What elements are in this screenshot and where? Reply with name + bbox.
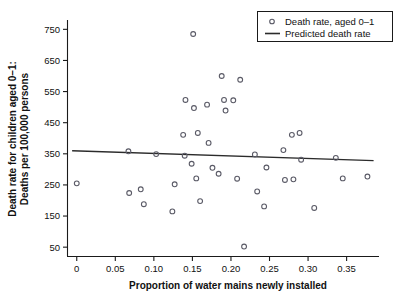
y-axis-title-line1: Death rate for children aged 0–1: <box>7 61 18 217</box>
y-tick-label: 50 <box>49 242 60 253</box>
data-point <box>183 98 188 103</box>
fit-line-segment <box>72 151 373 161</box>
legend-label-scatter: Death rate, aged 0–1 <box>285 16 374 27</box>
data-point <box>255 189 260 194</box>
data-point <box>283 178 288 183</box>
x-tick-label: 0.15 <box>183 263 202 274</box>
data-point <box>262 204 267 209</box>
x-tick-label: 0.05 <box>106 263 125 274</box>
x-axis-ticks: 00.050.100.150.200.250.300.35 <box>74 257 356 275</box>
y-tick-label: 550 <box>44 86 60 97</box>
chart-figure: Death rate for children aged 0–1: Deaths… <box>0 0 398 301</box>
data-points <box>74 32 369 249</box>
data-point <box>297 131 302 136</box>
regression-line <box>72 151 373 161</box>
data-point <box>210 165 215 170</box>
data-point <box>192 106 197 111</box>
data-point <box>289 132 294 137</box>
y-axis-title: Death rate for children aged 0–1: Deaths… <box>7 61 30 217</box>
data-point <box>222 98 227 103</box>
legend: Death rate, aged 0–1 Predicted death rat… <box>258 12 393 42</box>
data-point <box>194 176 199 181</box>
data-point <box>291 177 296 182</box>
data-point <box>216 171 221 176</box>
x-tick-label: 0.30 <box>299 263 318 274</box>
data-point <box>223 108 228 113</box>
data-point <box>191 32 196 37</box>
data-point <box>238 77 243 82</box>
legend-label-fitline: Predicted death rate <box>285 28 371 39</box>
y-tick-label: 150 <box>44 210 60 221</box>
x-tick-label: 0.25 <box>260 263 279 274</box>
data-point <box>205 102 210 107</box>
data-point <box>312 206 317 211</box>
y-tick-label: 250 <box>44 179 60 190</box>
x-tick-label: 0.10 <box>145 263 164 274</box>
data-point <box>74 181 79 186</box>
y-tick-label: 750 <box>44 24 60 35</box>
x-axis-title: Proportion of water mains newly installe… <box>129 280 327 291</box>
data-point <box>189 161 194 166</box>
scatter-plot-svg: Death rate for children aged 0–1: Deaths… <box>0 0 398 301</box>
data-point <box>198 199 203 204</box>
data-point <box>242 244 247 249</box>
data-point <box>231 98 236 103</box>
y-tick-label: 350 <box>44 148 60 159</box>
data-point <box>264 165 269 170</box>
x-tick-label: 0.35 <box>337 263 356 274</box>
data-point <box>127 191 132 196</box>
y-tick-label: 450 <box>44 117 60 128</box>
data-point <box>340 176 345 181</box>
data-point <box>172 182 177 187</box>
y-axis-title-line2: Deaths per 100,000 persons <box>19 72 30 205</box>
data-point <box>235 176 240 181</box>
data-point <box>141 202 146 207</box>
data-point <box>281 148 286 153</box>
x-tick-label: 0 <box>74 263 79 274</box>
data-point <box>170 209 175 214</box>
y-tick-label: 650 <box>44 55 60 66</box>
data-point <box>219 74 224 79</box>
data-point <box>206 141 211 146</box>
x-tick-label: 0.20 <box>222 263 241 274</box>
data-point <box>138 187 143 192</box>
data-point <box>195 131 200 136</box>
data-point <box>181 132 186 137</box>
data-point <box>365 174 370 179</box>
y-axis-ticks: 50150250350450550650750 <box>44 24 67 253</box>
